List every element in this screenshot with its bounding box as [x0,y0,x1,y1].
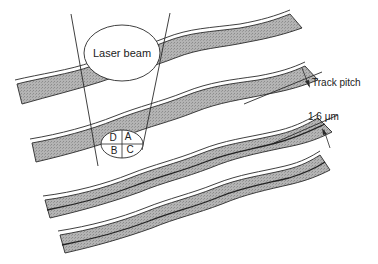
segment-a-label: A [125,131,132,142]
optical-track-diagram: Track pitch 1.6 μm Laser beam D A B C [0,0,378,264]
laser-beam-label: Laser beam [93,47,151,59]
track-pitch-label: Track pitch [312,77,361,88]
pitch-value-label: 1.6 μm [308,111,339,122]
segment-c-label: C [126,144,133,155]
quad-detector-spot: D A B C [101,130,143,158]
segment-d-label: D [109,132,116,143]
segment-b-label: B [111,145,118,156]
